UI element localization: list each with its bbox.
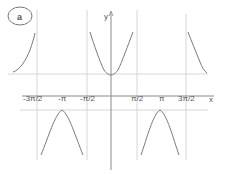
curve-branch-neg-pi-lower [41,110,83,155]
curve-branch-right-upper [188,32,207,73]
tick-neg-pi-2: -π/2 [80,94,95,103]
tick-pi-2: π/2 [131,94,144,103]
y-axis-label: y [104,12,108,21]
x-axis-label: x [209,95,213,104]
figure-badge: a [8,7,32,25]
tick-neg-3pi-2: -3π/2 [23,94,43,103]
tick-neg-pi: -π [58,94,67,103]
curve-branch-pi-lower [141,110,179,155]
badge-label: a [17,12,23,22]
curve-branch-left-upper [13,33,35,72]
tick-pi: π [159,94,165,103]
tick-3pi-2: 3π/2 [178,94,195,103]
sec-graph: a y x -3π/2 -π -π/2 π/2 π 3π/2 [0,0,228,174]
